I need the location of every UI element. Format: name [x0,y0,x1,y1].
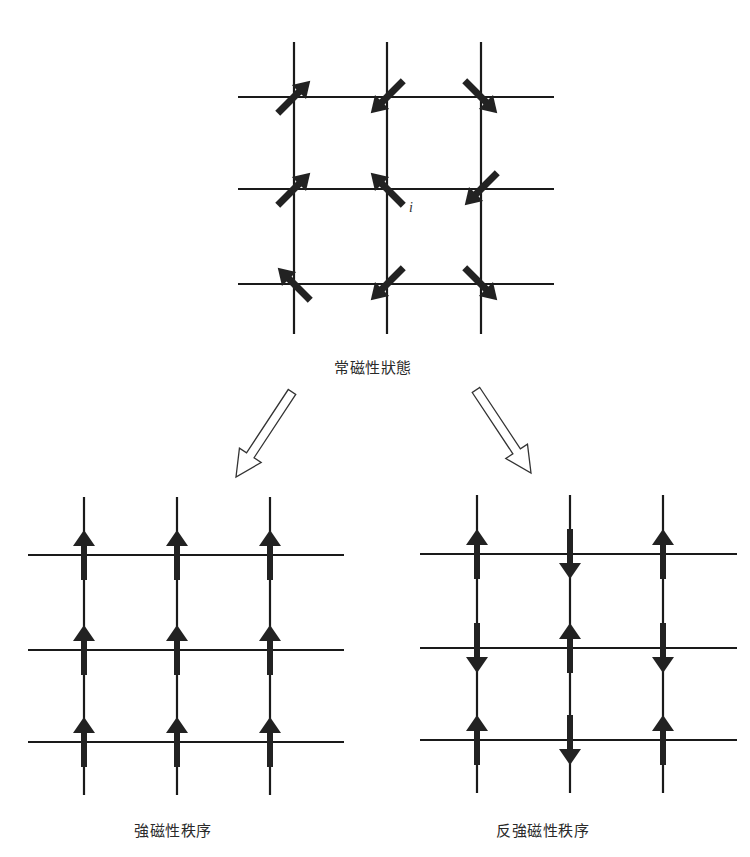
antiferromagnetic-lattice [420,495,737,793]
hollow-arrow-icon [225,385,303,484]
antiferromagnetic-label: 反強磁性秩序 [496,819,589,840]
ferromagnetic-lattice [28,497,344,795]
magnetic-order-diagram [0,0,750,857]
hollow-arrow-icon [465,383,542,480]
ferromagnetic-label: 強磁性秩序 [134,819,212,840]
paramagnetic-label: 常磁性狀態 [334,356,412,377]
site-i-label: i [409,200,413,216]
transition-arrows [225,383,542,484]
paramagnetic-lattice [238,42,554,334]
